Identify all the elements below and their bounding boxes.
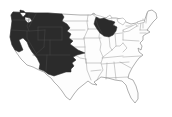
us-range-map-canvas (0, 0, 172, 117)
us-range-map-figure (0, 0, 172, 117)
